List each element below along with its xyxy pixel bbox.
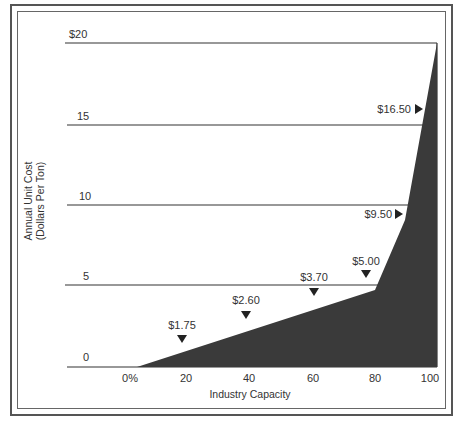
x-axis-title: Industry Capacity bbox=[200, 388, 300, 400]
y-axis-title-line2: (Dollars Per Ton) bbox=[34, 126, 46, 276]
x-tick-0: 0% bbox=[122, 372, 138, 384]
annotation-1-75: $1.75 bbox=[168, 319, 196, 331]
y-axis-title-line1: Annual Unit Cost bbox=[22, 126, 34, 276]
y-tick-10: 10 bbox=[79, 190, 91, 202]
x-tick-60: 60 bbox=[307, 372, 319, 384]
down-triangle-icon bbox=[177, 335, 187, 343]
annotation-9-50: $9.50 bbox=[364, 208, 392, 220]
x-tick-20: 20 bbox=[180, 372, 192, 384]
x-tick-40: 40 bbox=[243, 372, 255, 384]
y-tick-0: 0 bbox=[83, 351, 89, 363]
annotation-3-70: $3.70 bbox=[300, 271, 328, 283]
x-tick-100: 100 bbox=[421, 372, 439, 384]
down-triangle-icon bbox=[361, 270, 371, 278]
annotation-2-60: $2.60 bbox=[232, 294, 260, 306]
plot-area: $20 15 10 5 0 0% 20 40 60 80 100 $1.75 $… bbox=[0, 0, 464, 431]
x-tick-80: 80 bbox=[369, 372, 381, 384]
down-triangle-icon bbox=[309, 288, 319, 296]
y-tick-5: 5 bbox=[83, 270, 89, 282]
y-axis-title: Annual Unit Cost (Dollars Per Ton) bbox=[22, 126, 52, 276]
down-triangle-icon bbox=[241, 311, 251, 319]
right-triangle-icon bbox=[395, 209, 403, 219]
y-tick-20: $20 bbox=[69, 28, 87, 40]
annotation-5-00: $5.00 bbox=[352, 255, 380, 267]
y-tick-15: 15 bbox=[77, 110, 89, 122]
right-triangle-icon bbox=[415, 104, 423, 114]
annotation-16-50: $16.50 bbox=[377, 103, 411, 115]
